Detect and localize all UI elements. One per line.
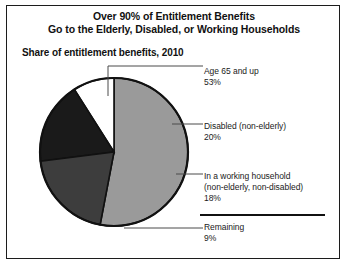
pie-label-working-household-text-1: In a working household <box>204 171 303 182</box>
pie-label-remaining-text: Remaining <box>204 222 244 233</box>
pie-label-remaining-value: 9% <box>204 233 244 244</box>
pie-slice-disabled-non-elderly <box>41 152 114 225</box>
pie-label-age-65-and-up-text: Age 65 and up <box>204 66 259 77</box>
pie-label-working-household-value: 18% <box>204 193 303 204</box>
pie-label-remaining: Remaining 9% <box>204 222 244 244</box>
pie-label-disabled-value: 20% <box>204 132 286 143</box>
pie-label-working-household-text-2: (non-elderly, non-disabled) <box>204 182 303 193</box>
pie-label-age-65-and-up: Age 65 and up 53% <box>204 66 259 88</box>
pie-label-age-65-and-up-value: 53% <box>204 77 259 88</box>
figure-container: Over 90% of Entitlement Benefits Go to t… <box>0 0 348 267</box>
pie-label-working-household: In a working household (non-elderly, non… <box>204 171 303 204</box>
pie-label-disabled-text: Disabled (non-elderly) <box>204 121 286 132</box>
pie-chart <box>0 0 348 267</box>
pie-label-disabled: Disabled (non-elderly) 20% <box>204 121 286 143</box>
